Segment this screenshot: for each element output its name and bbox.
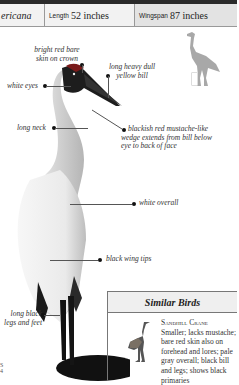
- pointer-dot-overall: [132, 202, 136, 206]
- leader-overall: [70, 204, 132, 205]
- species-name: ericana: [0, 4, 45, 26]
- leader-wingtips: [50, 260, 98, 261]
- leader-bill: [108, 76, 109, 98]
- leader-mustache: [90, 108, 125, 133]
- label-eyes: white eyes: [7, 82, 38, 91]
- pointer-dot-wingtips: [98, 258, 102, 262]
- sandhill-crane-thumbnail-icon: [124, 320, 154, 364]
- page-marks: S 4: [0, 362, 3, 374]
- length-label: Length: [49, 12, 69, 19]
- wingspan-cell: Wingspan 87 inches: [135, 4, 237, 26]
- length-cell: Length 52 inches: [45, 4, 135, 26]
- length-value: 52 inches: [71, 10, 109, 21]
- wingspan-value: 87 inches: [170, 10, 208, 21]
- label-mustache: blackish red mustache-like wedge extends…: [128, 125, 238, 151]
- label-neck: long neck: [17, 124, 46, 133]
- label-wingtips: black wing tips: [106, 255, 151, 264]
- crane-silhouette-icon: [180, 30, 230, 88]
- leader-legs: [44, 315, 60, 316]
- similar-bird-entry: Sandhill Crane Smaller; lacks mustache; …: [161, 318, 239, 385]
- leader-crown: [82, 65, 83, 73]
- measurement-header: ericana Length 52 inches Wingspan 87 inc…: [0, 4, 237, 27]
- similar-bird-description: Smaller; lacks mustache; bare red skin a…: [161, 328, 239, 385]
- similar-birds-title: Similar Birds: [108, 292, 237, 313]
- leader-eyes: [46, 86, 71, 87]
- pointer-dot-mustache: [122, 128, 126, 132]
- label-overall: white overall: [139, 199, 178, 208]
- label-crown: bright red bare skin on crown: [28, 46, 86, 63]
- similar-bird-name: Sandhill Crane: [161, 318, 239, 328]
- leader-neck: [55, 128, 88, 129]
- person-scale-icon: [191, 72, 198, 86]
- similar-birds-panel: Similar Birds Sandhill Crane Smaller; la…: [107, 291, 237, 381]
- label-bill: long heavy dull yellow bill: [106, 63, 158, 80]
- wingspan-label: Wingspan: [139, 12, 168, 19]
- label-legs: long black legs and feet: [0, 310, 42, 327]
